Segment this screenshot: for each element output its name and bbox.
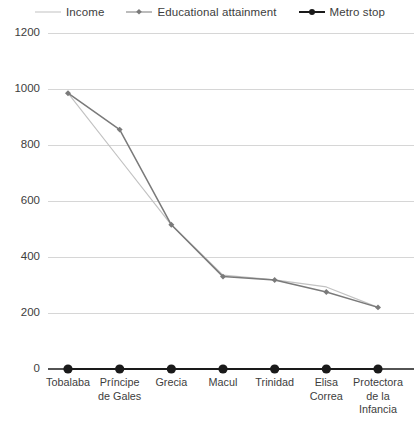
y-axis-tick-label: 600 <box>21 194 40 206</box>
x-axis-tick-label: Tobalaba <box>46 376 90 388</box>
metro-stop-marker[interactable] <box>218 364 227 373</box>
x-axis-tick-label: Trinidad <box>255 376 294 388</box>
x-axis-tick-label: Protectorade laInfancia <box>353 376 403 415</box>
line-diamond-swatch-icon <box>126 7 152 17</box>
series-lines-group <box>68 93 378 369</box>
legend-item-income[interactable]: Income <box>35 6 104 18</box>
metro-stop-marker[interactable] <box>115 364 124 373</box>
y-axis-tick-label: 400 <box>21 250 40 262</box>
legend-label: Educational attainment <box>157 6 276 18</box>
metro-stop-marker[interactable] <box>373 364 382 373</box>
legend-label: Income <box>66 6 104 18</box>
legend-item-educational-attainment[interactable]: Educational attainment <box>126 6 276 18</box>
line-circle-swatch-icon <box>299 7 325 17</box>
x-axis-tick-label: Príncipede Gales <box>98 376 142 402</box>
chart-container: IncomeEducational attainmentMetro stop 0… <box>0 0 420 426</box>
gridlines-group <box>48 33 414 369</box>
x-axis-tick-labels: TobalabaPríncipede GalesGreciaMaculTrini… <box>46 376 403 415</box>
metro-stop-marker[interactable] <box>270 364 279 373</box>
x-axis-tick-label: ElisaCorrea <box>310 376 343 402</box>
y-axis-tick-label: 1200 <box>14 26 40 38</box>
data-point-marker[interactable] <box>375 304 381 310</box>
y-axis-tick-label: 1000 <box>14 82 40 94</box>
legend-label: Metro stop <box>330 6 385 18</box>
chart-legend: IncomeEducational attainmentMetro stop <box>0 0 420 24</box>
plot-area: 020040060080010001200 TobalabaPríncipede… <box>0 24 420 426</box>
y-axis-tick-label: 800 <box>21 138 40 150</box>
data-point-marker[interactable] <box>272 277 278 283</box>
data-point-marker[interactable] <box>323 289 329 295</box>
metro-stop-marker[interactable] <box>322 364 331 373</box>
x-axis-tick-label: Grecia <box>155 376 187 388</box>
y-axis-tick-labels: 020040060080010001200 <box>14 26 40 374</box>
y-axis-tick-label: 200 <box>21 306 40 318</box>
metro-stop-marker[interactable] <box>63 364 72 373</box>
legend-item-metro-stop[interactable]: Metro stop <box>299 6 385 18</box>
line-swatch-icon <box>35 7 61 17</box>
line-chart-svg: 020040060080010001200 TobalabaPríncipede… <box>0 24 420 426</box>
metro-stop-marker[interactable] <box>167 364 176 373</box>
series-markers-group <box>63 90 382 373</box>
x-axis-tick-label: Macul <box>209 376 238 388</box>
y-axis-tick-label: 0 <box>34 362 40 374</box>
